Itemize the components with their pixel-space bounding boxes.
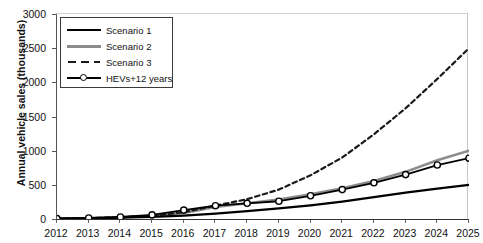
- series-marker: [371, 180, 377, 186]
- legend-item-scenario-2[interactable]: Scenario 2: [61, 38, 172, 54]
- y-tick-label: 2000: [12, 77, 46, 88]
- y-tick-label: 1500: [12, 112, 46, 123]
- legend-label: Scenario 2: [101, 41, 151, 52]
- series-marker: [149, 212, 155, 218]
- series-marker: [57, 216, 60, 219]
- legend-label: Scenario 3: [101, 57, 151, 68]
- legend-item-scenario-1[interactable]: Scenario 1: [61, 22, 172, 38]
- series-marker: [466, 155, 469, 161]
- series-marker: [86, 215, 92, 219]
- legend-swatch-icon: [67, 24, 101, 36]
- y-tick-label: 3000: [12, 9, 46, 20]
- y-tick-label: 1000: [12, 146, 46, 157]
- x-tick-label: 2025: [448, 228, 483, 239]
- series-marker: [244, 200, 250, 206]
- series-marker: [403, 171, 409, 177]
- y-axis-tick-labels: 050010001500200025003000: [10, 0, 46, 243]
- series-marker: [117, 214, 123, 219]
- legend-label: Scenario 1: [101, 25, 151, 36]
- legend-swatch-icon: [67, 72, 101, 84]
- chart-figure: Annual vehicle sales (thousands) 0500100…: [0, 0, 483, 243]
- series-line-scenario-2: [57, 151, 469, 219]
- legend-label: HEVs+12 years: [101, 73, 172, 84]
- series-marker: [434, 162, 440, 168]
- series-marker: [212, 203, 218, 209]
- series-marker: [276, 198, 282, 204]
- series-marker: [339, 187, 345, 193]
- legend-item-hevs-12-years[interactable]: HEVs+12 years: [61, 70, 172, 86]
- y-tick-label: 2500: [12, 43, 46, 54]
- legend-swatch-icon: [67, 56, 101, 68]
- legend-item-scenario-3[interactable]: Scenario 3: [61, 54, 172, 70]
- legend-swatch-icon: [67, 40, 101, 52]
- chart-legend: Scenario 1Scenario 2Scenario 3HEVs+12 ye…: [60, 17, 173, 88]
- series-marker: [307, 193, 313, 199]
- series-marker: [181, 207, 187, 213]
- x-axis-tick-labels: 2012201320142015201620172018201920202021…: [0, 223, 483, 241]
- y-tick-label: 500: [12, 180, 46, 191]
